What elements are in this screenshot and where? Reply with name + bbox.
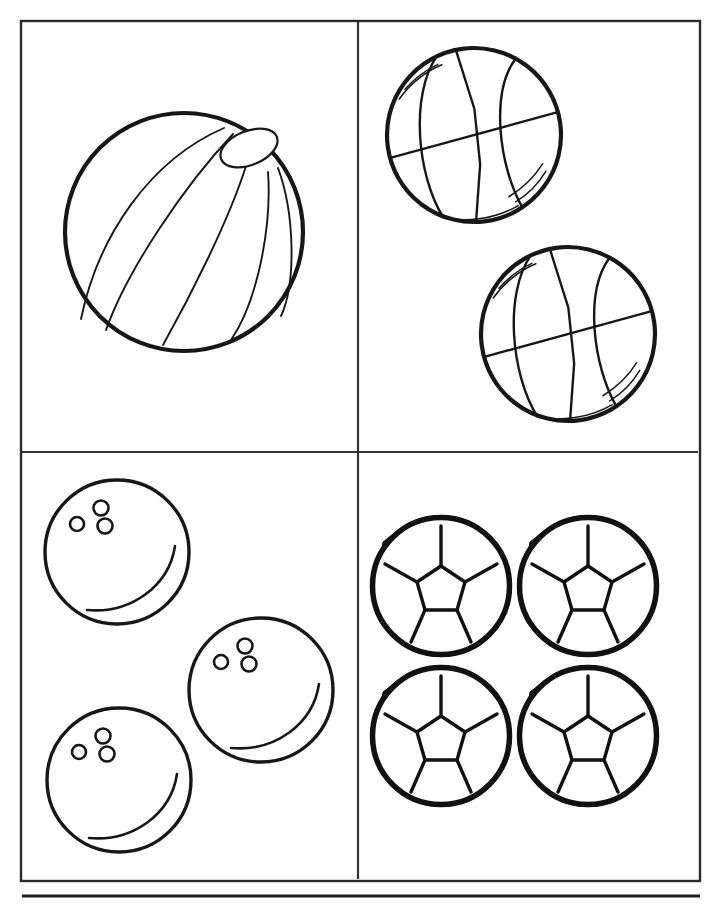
bowling-ball-1 — [45, 480, 189, 624]
soccer-ball-3 — [373, 668, 510, 807]
soccer-ball-2 — [520, 518, 657, 657]
panel-beach-ball — [65, 113, 303, 351]
sheet-canvas — [0, 0, 722, 906]
bowling-ball-2 — [189, 618, 333, 762]
bowling-ball-3 — [47, 708, 191, 852]
soccer-ball-1 — [373, 518, 510, 657]
coloring-page-sheet: Sports Balls Coloring Page — [0, 0, 722, 906]
soccer-ball-4 — [520, 668, 657, 807]
